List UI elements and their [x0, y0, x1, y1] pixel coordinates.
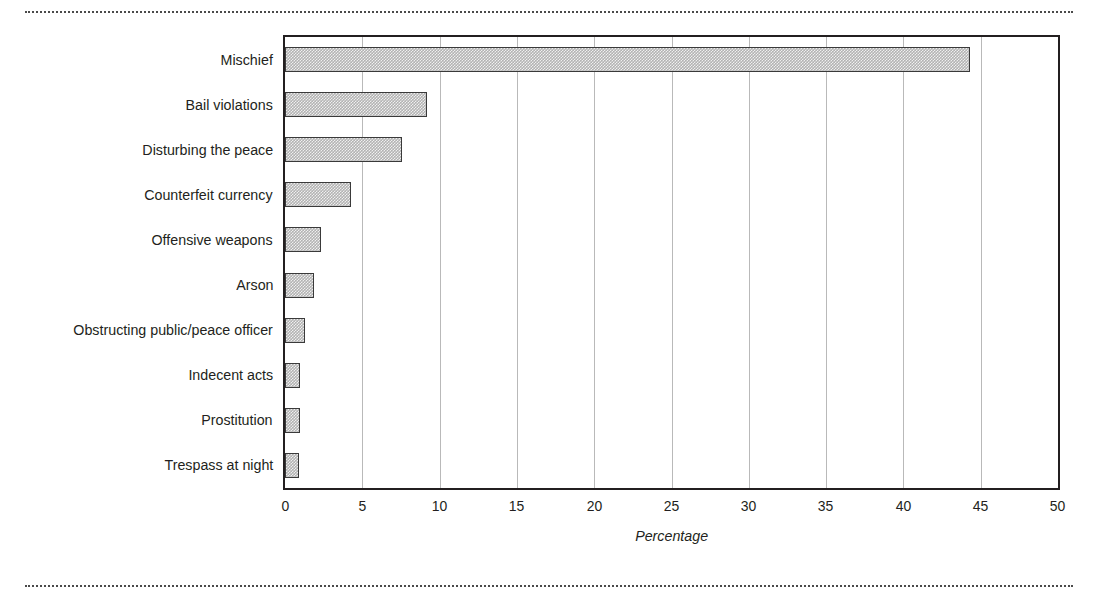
x-tick-label-text: 50	[1050, 497, 1066, 515]
category-label: Offensive weapons	[0, 231, 273, 249]
bar	[285, 408, 300, 433]
x-tick-label-text: 0	[281, 497, 289, 515]
category-label-text: Mischief	[221, 51, 273, 69]
x-tick-label-text: 25	[664, 497, 680, 515]
bar-chart-figure: MischiefBail violationsDisturbing the pe…	[0, 0, 1098, 593]
x-tick-10: 10	[410, 497, 470, 515]
category-label-text: Arson	[236, 276, 273, 294]
category-label: Disturbing the peace	[0, 141, 273, 159]
x-tick-label-text: 10	[432, 497, 448, 515]
x-tick-5: 5	[332, 497, 392, 515]
category-label-text: Disturbing the peace	[142, 141, 273, 159]
x-tick-label-text: 20	[586, 497, 602, 515]
x-tick-30: 30	[719, 497, 779, 515]
category-label-text: Indecent acts	[188, 366, 273, 384]
plot-inner	[285, 37, 1058, 488]
x-tick-40: 40	[873, 497, 933, 515]
category-label: Mischief	[0, 51, 273, 69]
bar	[285, 227, 321, 252]
gridline-45	[981, 37, 982, 488]
category-label-text: Trespass at night	[164, 456, 273, 474]
x-axis-title-text: Percentage	[635, 527, 708, 545]
bottom-dotted-rule	[25, 585, 1073, 587]
bar	[285, 92, 427, 117]
x-tick-label-text: 15	[509, 497, 525, 515]
category-label: Trespass at night	[0, 456, 273, 474]
category-label: Arson	[0, 276, 273, 294]
category-label: Counterfeit currency	[0, 186, 273, 204]
x-axis-title: Percentage	[283, 527, 1060, 545]
x-tick-45: 45	[951, 497, 1011, 515]
gridline-20	[594, 37, 595, 488]
plot-area	[283, 35, 1060, 490]
gridline-25	[672, 37, 673, 488]
x-tick-50: 50	[1028, 497, 1088, 515]
category-label: Obstructing public/peace officer	[0, 321, 273, 339]
x-tick-label-text: 45	[973, 497, 989, 515]
gridline-10	[440, 37, 441, 488]
bar	[285, 363, 300, 388]
x-tick-35: 35	[796, 497, 856, 515]
x-tick-20: 20	[564, 497, 624, 515]
x-tick-15: 15	[487, 497, 547, 515]
category-label: Indecent acts	[0, 366, 273, 384]
x-tick-label-text: 40	[896, 497, 912, 515]
x-tick-25: 25	[642, 497, 702, 515]
bar	[285, 273, 314, 298]
bar	[285, 453, 299, 478]
x-tick-0: 0	[255, 497, 315, 515]
bar	[285, 137, 402, 162]
category-label-text: Offensive weapons	[152, 231, 273, 249]
gridline-30	[749, 37, 750, 488]
bar	[285, 318, 305, 343]
bar	[285, 47, 970, 72]
category-label-text: Counterfeit currency	[145, 186, 273, 204]
gridline-40	[903, 37, 904, 488]
x-tick-label-text: 5	[358, 497, 366, 515]
category-label-text: Bail violations	[186, 96, 273, 114]
gridline-15	[517, 37, 518, 488]
gridline-35	[826, 37, 827, 488]
x-tick-label-text: 30	[741, 497, 757, 515]
category-label-text: Prostitution	[202, 411, 273, 429]
category-label-text: Obstructing public/peace officer	[74, 321, 273, 339]
category-label: Bail violations	[0, 96, 273, 114]
bar	[285, 182, 351, 207]
x-tick-label-text: 35	[818, 497, 834, 515]
category-label: Prostitution	[0, 411, 273, 429]
